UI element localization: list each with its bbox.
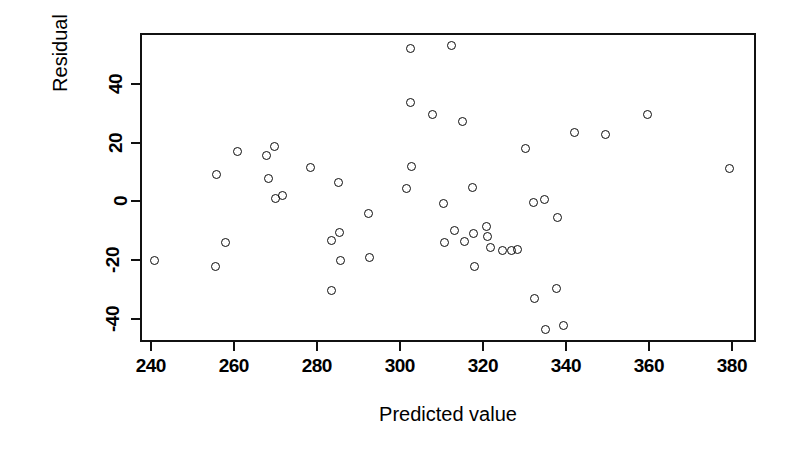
scatter-point <box>529 198 538 207</box>
scatter-point <box>334 178 343 187</box>
y-tick-label: -40 <box>0 305 126 333</box>
x-tick-mark <box>482 342 484 351</box>
x-tick-mark <box>233 342 235 351</box>
scatter-point <box>482 222 491 231</box>
y-tick-mark <box>131 142 140 144</box>
scatter-point <box>336 256 345 265</box>
scatter-point <box>278 191 287 200</box>
x-tick-label: 300 <box>365 355 435 377</box>
x-tick-mark <box>648 342 650 351</box>
plot-area <box>140 33 756 342</box>
scatter-point <box>402 184 411 193</box>
scatter-point <box>406 98 415 107</box>
scatter-point <box>458 117 467 126</box>
scatter-point <box>306 163 315 172</box>
scatter-point <box>460 237 469 246</box>
x-tick-label: 340 <box>531 355 601 377</box>
y-tick-mark <box>131 318 140 320</box>
x-tick-mark <box>316 342 318 351</box>
scatter-point <box>335 228 344 237</box>
scatter-point <box>406 44 415 53</box>
residual-scatter-figure: Residual Predicted value 40200-20-40 240… <box>0 0 802 450</box>
scatter-point <box>270 142 279 151</box>
scatter-point <box>559 321 568 330</box>
scatter-point <box>439 199 448 208</box>
x-tick-label: 260 <box>199 355 269 377</box>
y-axis-title: Residual <box>40 0 80 208</box>
scatter-point <box>150 256 159 265</box>
scatter-point <box>407 162 416 171</box>
x-tick-label: 240 <box>116 355 186 377</box>
scatter-point <box>440 238 449 247</box>
y-tick-label: 20 <box>0 129 126 157</box>
x-tick-mark <box>150 342 152 351</box>
x-tick-mark <box>731 342 733 351</box>
x-tick-label: 360 <box>614 355 684 377</box>
x-tick-label: 380 <box>697 355 767 377</box>
scatter-point <box>470 262 479 271</box>
x-tick-label: 280 <box>282 355 352 377</box>
x-tick-label: 320 <box>448 355 518 377</box>
scatter-point <box>553 213 562 222</box>
scatter-point <box>486 243 495 252</box>
scatter-points-layer <box>142 35 754 340</box>
x-tick-mark <box>399 342 401 351</box>
scatter-point <box>327 236 336 245</box>
x-axis-title: Predicted value <box>140 403 756 426</box>
scatter-point <box>570 128 579 137</box>
scatter-point <box>552 284 561 293</box>
scatter-point <box>530 294 539 303</box>
scatter-point <box>365 253 374 262</box>
scatter-point <box>327 286 336 295</box>
scatter-point <box>541 325 550 334</box>
scatter-point <box>221 238 230 247</box>
y-tick-label: 40 <box>0 70 126 98</box>
scatter-point <box>601 130 610 139</box>
scatter-point <box>540 195 549 204</box>
scatter-point <box>468 183 477 192</box>
x-tick-mark <box>565 342 567 351</box>
scatter-point <box>211 262 220 271</box>
scatter-point <box>447 41 456 50</box>
scatter-point <box>498 246 507 255</box>
y-tick-label: -20 <box>0 246 126 274</box>
scatter-point <box>513 245 522 254</box>
scatter-point <box>262 151 271 160</box>
scatter-point <box>428 110 437 119</box>
scatter-point <box>643 110 652 119</box>
scatter-point <box>521 144 530 153</box>
scatter-point <box>264 174 273 183</box>
scatter-point <box>483 232 492 241</box>
scatter-point <box>212 170 221 179</box>
scatter-point <box>233 147 242 156</box>
y-tick-mark <box>131 83 140 85</box>
scatter-point <box>450 226 459 235</box>
scatter-point <box>364 209 373 218</box>
scatter-point <box>469 229 478 238</box>
y-tick-label: 0 <box>0 187 126 215</box>
y-tick-mark <box>131 259 140 261</box>
scatter-point <box>725 164 734 173</box>
